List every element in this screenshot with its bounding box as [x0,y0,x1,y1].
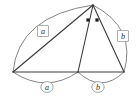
diagram-canvas: a b a b [0,0,139,97]
label-circle-a-text: a [45,83,49,92]
label-box-a: a [38,26,49,37]
label-circle-b-text: b [96,83,100,92]
arc-lower-right [78,72,124,83]
geometry-diagram: a b a b [0,0,139,97]
angle-dot-right-icon [95,18,98,21]
label-circle-b: b [92,82,104,93]
label-box-b: b [118,31,129,42]
label-box-b-text: b [121,32,125,41]
angle-dot-left-icon [86,18,89,21]
label-circle-a: a [41,82,53,93]
label-box-a-text: a [41,27,45,36]
